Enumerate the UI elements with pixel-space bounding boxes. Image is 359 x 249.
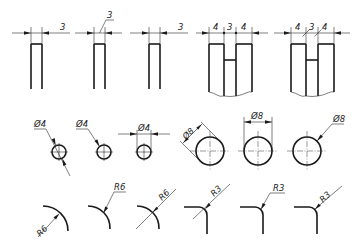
linear-dim-example-4: 4 3 4 [196,22,268,97]
diameter-label: Ø8 [250,111,264,121]
radius-r3-example-3: R3 [294,186,342,234]
radius-r6-example-3: R6 [136,187,176,229]
dimension-label: 4 [295,22,300,32]
dimension-label: 4 [322,22,327,32]
diameter-label: Ø4 [75,119,88,129]
radius-label: R6 [156,187,171,202]
diameter-large-example-3: Ø8 [287,114,346,171]
dimensioning-drawing: 3 3 3 [0,0,359,249]
radius-r3-example-2: R3 [240,183,285,234]
radius-label: R3 [273,183,284,193]
radius-label: R3 [317,189,332,204]
radius-r6-example-2: R6 [88,182,126,229]
dimension-label: 3 [60,22,65,32]
linear-dim-example-2: 3 [75,10,122,89]
diameter-small-example-1: Ø4 [33,119,70,176]
dimension-label: 4 [241,22,246,32]
dimension-label: 3 [107,10,112,20]
diameter-label: Ø8 [180,125,197,142]
linear-dim-example-3: 3 [130,22,188,89]
radius-label: R3 [208,183,223,198]
diameter-label: Ø8 [332,114,346,124]
radius-label: R6 [114,182,126,192]
diameter-label: Ø4 [137,123,150,133]
dimension-label: 4 [213,22,218,32]
dimension-label: 3 [178,22,183,32]
linear-dim-example-5: 4 3 4 [274,22,350,97]
dimension-label: 3 [309,22,314,32]
diameter-small-example-2: Ø4 [75,119,113,161]
diameter-label: Ø4 [33,119,46,129]
radius-label: R6 [34,223,49,238]
diameter-large-example-2: Ø8 [238,111,278,171]
radius-r6-example-1: R6 [34,206,68,238]
radius-r3-example-1: R3 [184,183,230,234]
linear-dim-example-1: 3 [12,22,70,89]
diameter-small-example-3: Ø4 [118,123,170,161]
dimension-label: 3 [227,22,232,32]
diameter-large-example-1: Ø8 [180,122,230,171]
